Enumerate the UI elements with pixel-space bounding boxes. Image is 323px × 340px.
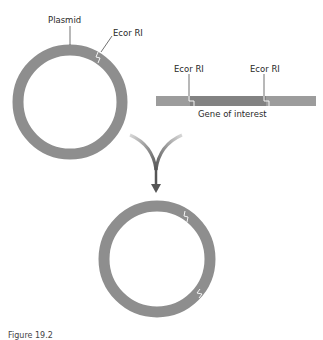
ecor-plasmid-label: Ecor RI (113, 28, 143, 38)
gene-of-interest-segment (190, 96, 266, 106)
merge-arrow-left-branch (130, 135, 156, 170)
figure-caption: Figure 19.2 (8, 331, 53, 340)
gene-of-interest-label: Gene of interest (198, 109, 267, 119)
merge-arrow-right-branch (156, 135, 182, 170)
ecor-right-label: Ecor RI (250, 64, 280, 74)
plasmid-ring (18, 50, 122, 154)
dna-bar-right (266, 96, 316, 106)
ecor-left-label: Ecor RI (174, 64, 204, 74)
dna-bar-left (156, 96, 190, 106)
ecor-plasmid-leader-line (101, 36, 112, 52)
plasmid-label: Plasmid (48, 15, 81, 25)
merge-arrow-head-icon (151, 184, 161, 193)
recombinant-plasmid-ring (104, 206, 210, 312)
